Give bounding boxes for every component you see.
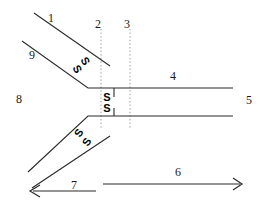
s-marker-lower-diagonal-b: S <box>80 136 94 149</box>
lower-horizontal-line <box>28 116 233 172</box>
s-marker-center-bottom: S <box>103 102 110 114</box>
s-marker-upper-diagonal-b: S <box>70 63 84 75</box>
upper-diagonal-line-9 <box>22 41 233 88</box>
label-2: 2 <box>95 17 101 31</box>
label-3: 3 <box>124 17 130 31</box>
label-7: 7 <box>71 178 77 192</box>
label-1: 1 <box>48 11 54 25</box>
label-5: 5 <box>246 93 252 107</box>
label-6: 6 <box>175 165 181 179</box>
label-9: 9 <box>29 48 35 62</box>
diagram-canvas: 1 2 3 4 5 6 7 8 9 S S S S S S <box>0 0 265 205</box>
junction-diagram: 1 2 3 4 5 6 7 8 9 S S S S S S <box>0 0 265 205</box>
label-4: 4 <box>170 69 176 83</box>
label-8: 8 <box>16 92 22 106</box>
